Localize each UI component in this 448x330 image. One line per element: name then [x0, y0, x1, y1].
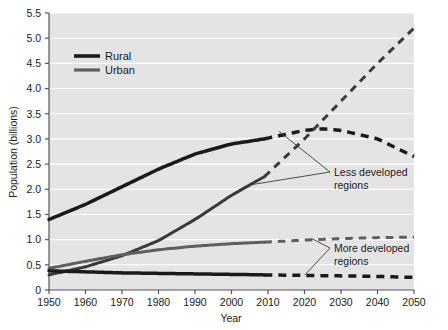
- legend-label-rural: Rural: [105, 50, 131, 62]
- y-tick-label: 4.5: [26, 57, 41, 69]
- x-tick-label: 1970: [110, 296, 134, 308]
- x-tick-label: 1960: [74, 296, 98, 308]
- x-tick-label: 1950: [37, 296, 61, 308]
- x-tick-label: 2020: [293, 296, 317, 308]
- y-tick-label: 4.0: [26, 82, 41, 94]
- x-tick-label: 2010: [256, 296, 280, 308]
- y-tick-label: 0: [35, 284, 41, 296]
- annotation-more-developed-line2: regions: [334, 255, 368, 267]
- annotation-less-developed-line1: Less developed: [334, 166, 408, 178]
- x-axis-tick-labels: 1950196019701980199020002010202020302040…: [37, 296, 426, 308]
- y-tick-label: 3.5: [26, 108, 41, 120]
- x-axis-label: Year: [220, 312, 242, 324]
- x-tick-label: 2040: [366, 296, 390, 308]
- legend-label-urban: Urban: [105, 64, 135, 76]
- annotation-less-developed-line2: regions: [334, 179, 368, 191]
- y-tick-label: 1.0: [26, 233, 41, 245]
- y-axis-label: Population (billions): [7, 106, 19, 198]
- y-tick-label: 1.5: [26, 208, 41, 220]
- y-tick-label: 2.0: [26, 183, 41, 195]
- x-tick-label: 2030: [329, 296, 353, 308]
- x-tick-label: 1990: [183, 296, 207, 308]
- y-tick-label: 0.5: [26, 259, 41, 271]
- y-tick-label: 3.0: [26, 133, 41, 145]
- population-chart-figure: 00.51.01.52.02.53.03.54.04.55.05.5 19501…: [0, 0, 448, 330]
- x-tick-label: 1980: [147, 296, 171, 308]
- x-tick-label: 2000: [220, 296, 244, 308]
- y-tick-label: 2.5: [26, 158, 41, 170]
- chart-svg: 00.51.01.52.02.53.03.54.04.55.05.5 19501…: [0, 0, 448, 330]
- annotation-more-developed-line1: More developed: [334, 242, 409, 254]
- y-tick-label: 5.5: [26, 7, 41, 19]
- x-tick-label: 2050: [402, 296, 426, 308]
- y-tick-label: 5.0: [26, 32, 41, 44]
